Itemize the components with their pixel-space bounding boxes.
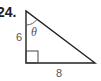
- vertical-side-label: 6: [16, 31, 22, 43]
- right-triangle-diagram: 6 8 θ: [0, 0, 101, 81]
- right-angle-marker: [26, 51, 38, 63]
- angle-theta-label: θ: [31, 25, 37, 39]
- horizontal-side-label: 8: [56, 67, 62, 79]
